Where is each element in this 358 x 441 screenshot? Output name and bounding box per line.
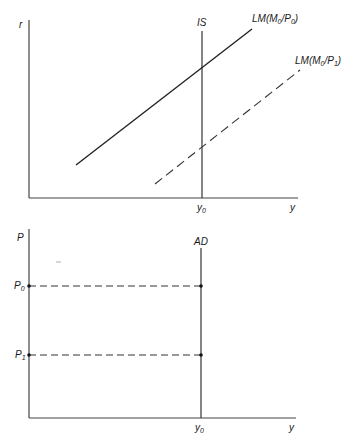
lm0-curve — [76, 29, 252, 165]
lm1-label: LM(M0/P1) — [295, 55, 341, 67]
bottom-panel: P y y0 AD P0 P1 — [14, 229, 296, 434]
p0-label: P0 — [14, 280, 25, 292]
bottom-y-axis-label: P — [17, 232, 24, 243]
top-x-axis-label: y — [289, 202, 296, 213]
p1-ad-point — [199, 353, 203, 357]
ad-label: AD — [193, 236, 208, 247]
is-label: IS — [197, 17, 207, 28]
p1-label: P1 — [15, 349, 26, 361]
diagram-canvas: r y y0 IS LM(M0/P0) LM(M0/P1) P y y0 AD … — [0, 0, 358, 441]
p0-ad-point — [199, 284, 203, 288]
bottom-x-axis-label: y — [288, 422, 295, 433]
top-x-tick-y0: y0 — [196, 202, 206, 214]
bottom-x-tick-y0: y0 — [194, 422, 204, 434]
top-panel: r y y0 IS LM(M0/P0) LM(M0/P1) — [19, 13, 341, 214]
lm0-label: LM(M0/P0) — [252, 13, 298, 25]
top-y-axis-label: r — [19, 19, 23, 30]
p0-axis-point — [27, 284, 31, 288]
p1-axis-point — [27, 353, 31, 357]
